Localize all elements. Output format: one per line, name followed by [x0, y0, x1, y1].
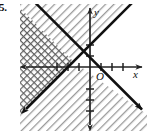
figure-container: 5. [0, 0, 147, 135]
y-axis-label: y [93, 6, 99, 18]
graph-panel: O x y [20, 4, 147, 131]
x-axis-label: x [132, 68, 138, 80]
coordinate-plane-svg: O x y [20, 4, 147, 131]
origin-label: O [96, 70, 104, 82]
figure-number-label: 5. [0, 1, 7, 13]
